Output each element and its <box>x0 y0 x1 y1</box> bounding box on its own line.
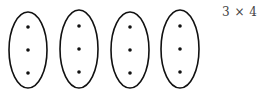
oval-group <box>161 10 199 88</box>
dot <box>128 71 132 75</box>
oval-group <box>9 12 47 88</box>
dot <box>77 70 81 74</box>
dot <box>178 24 182 28</box>
dot <box>77 24 81 28</box>
dot <box>26 25 30 29</box>
dot <box>128 48 132 52</box>
dot <box>26 71 30 75</box>
oval-group <box>60 10 98 88</box>
dot <box>178 47 182 51</box>
dot <box>77 47 81 51</box>
multiplication-label: 3 × 4 <box>222 5 257 19</box>
dot <box>128 25 132 29</box>
dot <box>26 48 30 52</box>
dot <box>178 70 182 74</box>
oval-groups <box>9 10 199 88</box>
oval-group <box>111 12 149 88</box>
